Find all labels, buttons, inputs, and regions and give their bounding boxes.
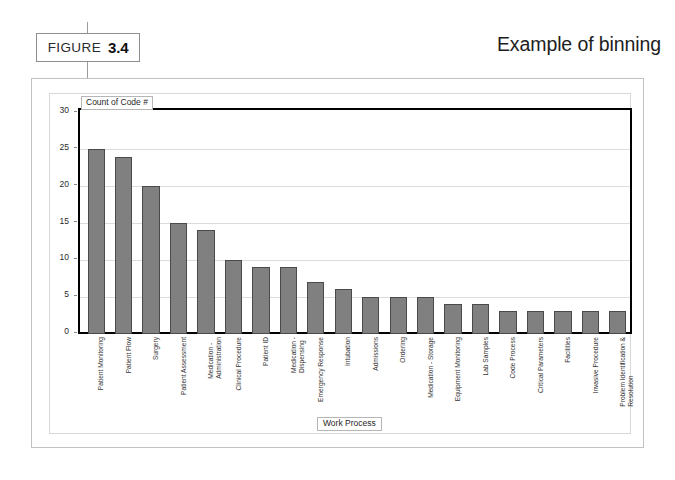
- x-axis-tick-label-line: Invasive Procedure: [592, 337, 600, 393]
- x-axis-tick-label-line: Facilities: [564, 337, 572, 363]
- x-axis-tick-label-line: Lab Samples: [482, 337, 490, 376]
- bar[interactable]: [225, 260, 242, 334]
- x-axis-tick-label: Ordering: [399, 337, 407, 363]
- chart-legend: Count of Code #: [81, 96, 153, 110]
- bar[interactable]: [142, 186, 159, 333]
- bar[interactable]: [170, 223, 187, 334]
- x-axis-tick-label-line: Patient ID: [262, 337, 270, 366]
- x-axis-tick-label-line: Emergency Response: [317, 337, 325, 402]
- bar[interactable]: [252, 267, 269, 333]
- x-axis-tick-label: Invasive Procedure: [592, 337, 600, 393]
- x-axis-tick-label-line: Ordering: [399, 337, 407, 363]
- x-axis-label: Work Process: [317, 417, 382, 431]
- x-axis-tick-label-line: Equipment Monitoring: [454, 337, 462, 401]
- bar[interactable]: [390, 297, 407, 334]
- x-axis-tick-label-line: Medication -: [290, 337, 298, 373]
- x-axis-tick-label-line: Medication - Storage: [427, 337, 435, 398]
- bar[interactable]: [582, 311, 599, 333]
- x-axis-tick-label: Medication -Dispensing: [290, 337, 306, 373]
- bar[interactable]: [527, 311, 544, 333]
- figure-title: Example of binning: [497, 33, 661, 56]
- x-axis-tick-label-line: Surgery: [152, 337, 160, 360]
- x-axis-tick-label-line: Code Process: [509, 337, 517, 378]
- x-axis-tick-label: Admissions: [372, 337, 380, 371]
- x-axis-tick-label-line: Patient Flow: [125, 337, 133, 373]
- bar[interactable]: [499, 311, 516, 333]
- x-axis-tick-label: Medication - Storage: [427, 337, 435, 398]
- x-axis-tick-label: Code Process: [509, 337, 517, 378]
- bar[interactable]: [362, 297, 379, 334]
- x-axis-tick-label-line: Problem Identification &: [619, 337, 627, 407]
- x-axis-tick-label: Lab Samples: [482, 337, 490, 376]
- bar-series: [83, 113, 632, 334]
- bar[interactable]: [115, 157, 132, 334]
- x-axis-tick-label-line: Resolution: [627, 337, 635, 407]
- plot-area: [78, 108, 632, 334]
- x-axis-tick-label-line: Patient Monitoring: [97, 337, 105, 390]
- figure-tick-top: [87, 22, 88, 33]
- x-axis-tick-label: Problem Identification &Resolution: [619, 337, 635, 407]
- x-axis-tick-label: Surgery: [152, 337, 160, 360]
- x-axis-tick-label: Emergency Response: [317, 337, 325, 402]
- x-axis-tick-label-line: Dispensing: [298, 337, 306, 373]
- bar[interactable]: [335, 289, 352, 333]
- x-axis-tick-label: Intubation: [344, 337, 352, 366]
- bar[interactable]: [472, 304, 489, 333]
- figure-number: 3.4: [108, 39, 128, 56]
- bar[interactable]: [444, 304, 461, 333]
- x-axis-tick-label-line: Administration: [215, 337, 223, 379]
- figure-label: FIGURE: [48, 40, 101, 55]
- x-axis-tick-label: Facilities: [564, 337, 572, 363]
- bar[interactable]: [609, 311, 626, 333]
- x-axis-tick-label: Clinical Procedure: [235, 337, 243, 391]
- x-axis-tick-label: Critical Parameters: [537, 337, 545, 393]
- bar[interactable]: [307, 282, 324, 334]
- x-axis-tick-label-line: Admissions: [372, 337, 380, 371]
- x-axis-tick-label-line: Patient Assessment: [180, 337, 188, 395]
- x-axis-tick-label: Patient ID: [262, 337, 270, 366]
- x-axis-tick-label-line: Clinical Procedure: [235, 337, 243, 391]
- x-axis-tick-label: Patient Assessment: [180, 337, 188, 395]
- x-axis-tick-label-line: Intubation: [344, 337, 352, 366]
- x-axis-tick-label: Patient Monitoring: [97, 337, 105, 390]
- bar[interactable]: [280, 267, 297, 333]
- figure-tick-bottom: [87, 62, 88, 78]
- x-axis-tick-label-line: Critical Parameters: [537, 337, 545, 393]
- bar[interactable]: [554, 311, 571, 333]
- x-axis-tick-label: Medication -Administration: [207, 337, 223, 379]
- bar[interactable]: [197, 230, 214, 333]
- bar[interactable]: [417, 297, 434, 334]
- figure-number-box: FIGURE 3.4: [36, 33, 140, 62]
- x-axis-tick-label: Patient Flow: [125, 337, 133, 373]
- figure-header: FIGURE 3.4 Example of binning: [0, 0, 675, 78]
- bar[interactable]: [88, 149, 105, 333]
- x-axis-tick-label: Equipment Monitoring: [454, 337, 462, 401]
- x-axis-tick-label-line: Medication -: [207, 337, 215, 379]
